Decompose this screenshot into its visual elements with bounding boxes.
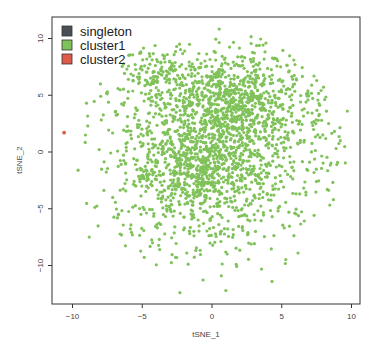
legend-swatch-cluster2 xyxy=(62,54,72,64)
y-tick-label: 0 xyxy=(36,149,45,154)
x-tick-label: −10 xyxy=(66,312,80,321)
x-tick-label: 10 xyxy=(347,312,356,321)
x-axis: −10−50510 xyxy=(66,304,357,321)
y-tick-label: −5 xyxy=(36,204,45,214)
y-tick-label: 5 xyxy=(36,92,45,97)
x-axis-title: tSNE_1 xyxy=(192,330,220,339)
legend-label-singleton: singleton xyxy=(80,24,132,39)
y-axis-title: tSNE_2 xyxy=(15,146,24,174)
scatter-points xyxy=(77,28,349,295)
y-tick-label: −10 xyxy=(36,258,45,272)
legend-item-cluster1: cluster1 xyxy=(62,38,126,53)
legend-swatch-singleton xyxy=(62,26,72,36)
cluster2-points xyxy=(62,131,66,135)
x-tick-label: 5 xyxy=(280,312,285,321)
y-axis: −10−50510 xyxy=(36,34,52,273)
x-tick-label: 0 xyxy=(210,312,215,321)
legend: singleton cluster1 cluster2 xyxy=(62,24,132,67)
legend-label-cluster2: cluster2 xyxy=(80,52,126,67)
legend-item-cluster2: cluster2 xyxy=(62,52,126,67)
legend-item-singleton: singleton xyxy=(62,24,132,39)
y-tick-label: 10 xyxy=(36,34,45,43)
tsne-scatter-chart: −10−50510 −10−50510 tSNE_1 tSNE_2 single… xyxy=(0,0,378,355)
legend-swatch-cluster1 xyxy=(62,40,72,50)
x-tick-label: −5 xyxy=(138,312,148,321)
legend-label-cluster1: cluster1 xyxy=(80,38,126,53)
